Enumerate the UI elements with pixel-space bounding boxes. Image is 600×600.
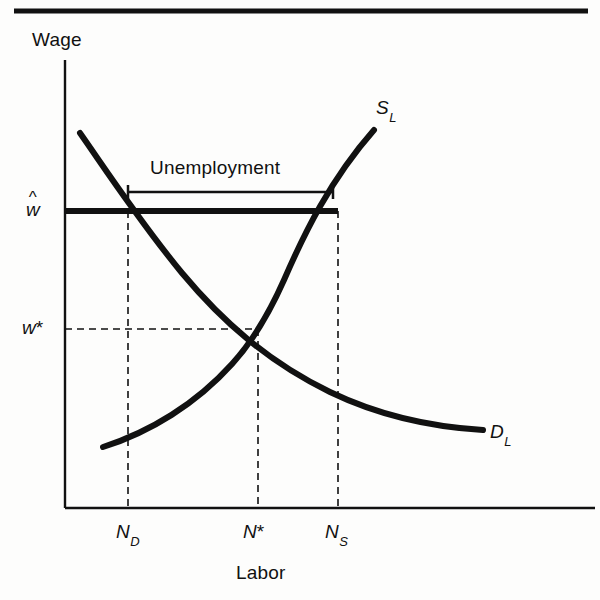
labor-market-diagram-canvas xyxy=(0,0,600,600)
labor-demanded-subscript: D xyxy=(130,534,139,549)
labor-demand-curve-label: DL xyxy=(490,422,511,445)
equilibrium-wage-symbol: w xyxy=(22,317,36,338)
asterisk: * xyxy=(36,317,43,338)
labor-demanded-symbol: N xyxy=(116,521,130,542)
circumflex-accent: ^ xyxy=(29,189,37,206)
x-tick-label-labor-demanded: ND xyxy=(116,522,139,545)
x-tick-label-labor-equilibrium: N* xyxy=(243,522,264,541)
y-tick-label-equilibrium-wage: w* xyxy=(22,318,43,337)
asterisk: * xyxy=(257,521,264,542)
labor-equilibrium-symbol: N xyxy=(243,521,257,542)
y-axis-title: Wage xyxy=(32,30,82,49)
supply-subscript: L xyxy=(389,110,396,125)
supply-symbol: S xyxy=(376,97,389,118)
demand-subscript: L xyxy=(504,434,511,449)
y-tick-label-rigid-wage: ^ w xyxy=(26,200,40,219)
unemployment-bracket xyxy=(128,185,333,199)
labor-supply-curve-label: SL xyxy=(376,98,396,121)
x-tick-label-labor-supplied: NS xyxy=(325,522,347,545)
labor-supplied-subscript: S xyxy=(339,534,348,549)
unemployment-bracket-label: Unemployment xyxy=(150,158,280,177)
demand-symbol: D xyxy=(490,421,504,442)
figure-page: Wage Labor Unemployment ^ w w* ND N* NS … xyxy=(0,0,600,600)
labor-supplied-symbol: N xyxy=(325,521,339,542)
x-axis-title: Labor xyxy=(236,563,286,582)
